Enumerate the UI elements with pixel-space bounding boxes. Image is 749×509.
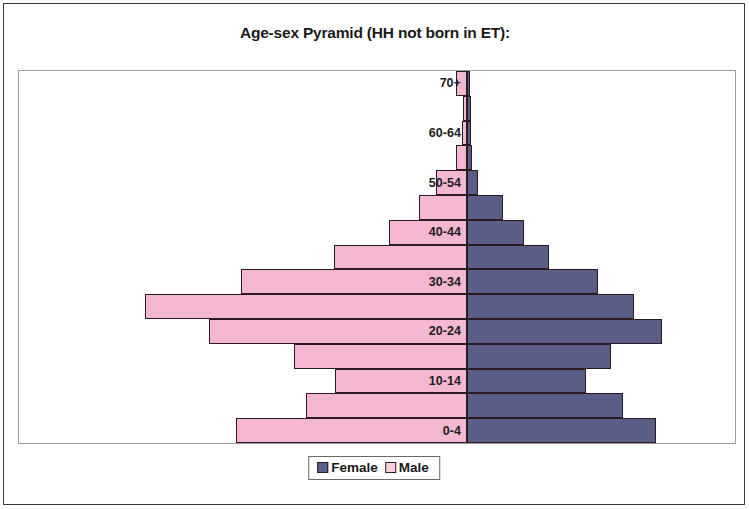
pyramid-row: [19, 393, 735, 418]
center-axis-line: [466, 71, 468, 443]
bar-male-30-34: [241, 269, 467, 294]
bar-female-35-39: [467, 245, 549, 270]
pyramid-row: [19, 245, 735, 270]
pyramid-bars: 0-410-1420-2430-3440-4450-5460-6470+: [19, 71, 735, 443]
bar-male-5-9: [306, 393, 467, 418]
chart-title: Age-sex Pyramid (HH not born in ET):: [4, 24, 746, 42]
plot-area: 0-410-1420-2430-3440-4450-5460-6470+: [18, 70, 736, 444]
legend-label-male: Male: [399, 460, 429, 475]
bar-male-15-19: [294, 344, 467, 369]
chart-figure: Age-sex Pyramid (HH not born in ET): 0-4…: [3, 3, 745, 505]
bar-female-10-14: [467, 369, 586, 394]
bar-male-35-39: [334, 245, 466, 270]
pyramid-row: 60-64: [19, 121, 735, 146]
pyramid-row: 70+: [19, 71, 735, 96]
legend-swatch-female-icon: [317, 462, 328, 473]
axis-tick-label-60-64: 60-64: [397, 126, 461, 140]
pyramid-row: 0-4: [19, 418, 735, 443]
pyramid-row: 30-34: [19, 269, 735, 294]
bar-female-50-54: [467, 170, 479, 195]
bar-female-5-9: [467, 393, 623, 418]
pyramid-row: [19, 195, 735, 220]
legend-item-female: Female: [317, 460, 378, 475]
pyramid-row: 10-14: [19, 369, 735, 394]
pyramid-row: [19, 294, 735, 319]
bar-female-20-24: [467, 319, 662, 344]
pyramid-row: [19, 344, 735, 369]
legend-item-male: Male: [385, 460, 429, 475]
pyramid-row: 20-24: [19, 319, 735, 344]
pyramid-row: 50-54: [19, 170, 735, 195]
chart-legend: Female Male: [308, 456, 440, 480]
bar-female-45-49: [467, 195, 503, 220]
pyramid-row: 40-44: [19, 220, 735, 245]
bar-female-0-4: [467, 418, 656, 443]
bar-female-30-34: [467, 269, 598, 294]
bar-male-50-54: [436, 170, 467, 195]
axis-tick-label-70+: 70+: [397, 76, 461, 90]
pyramid-row: [19, 145, 735, 170]
bar-male-25-29: [145, 294, 467, 319]
bar-male-0-4: [236, 418, 467, 443]
legend-label-female: Female: [331, 460, 378, 475]
pyramid-row: [19, 96, 735, 121]
bar-male-20-24: [209, 319, 467, 344]
legend-swatch-male-icon: [385, 462, 396, 473]
bar-female-15-19: [467, 344, 611, 369]
bar-male-45-49: [419, 195, 467, 220]
bar-female-25-29: [467, 294, 635, 319]
bar-female-40-44: [467, 220, 525, 245]
bar-male-40-44: [389, 220, 467, 245]
bar-male-10-14: [335, 369, 466, 394]
